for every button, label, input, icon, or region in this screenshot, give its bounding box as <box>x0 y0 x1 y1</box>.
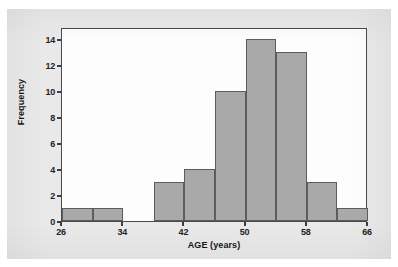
histogram-bar <box>184 169 215 221</box>
histogram-bar <box>62 208 93 221</box>
histogram-bar <box>276 52 307 221</box>
y-tick-label: 4 <box>50 163 55 177</box>
x-tick-mark <box>244 222 246 226</box>
x-tick-mark <box>366 222 368 226</box>
histogram-bar <box>215 91 246 221</box>
histogram-bar <box>154 182 185 221</box>
y-tick-label: 12 <box>45 59 55 73</box>
x-tick-mark <box>182 222 184 226</box>
x-tick-mark <box>121 222 123 226</box>
y-axis-title: Frequency <box>16 62 26 142</box>
x-tick-label: 26 <box>47 227 75 237</box>
x-tick-label: 50 <box>231 227 259 237</box>
histogram-bar <box>307 182 338 221</box>
y-tick-label: 14 <box>45 33 55 47</box>
histogram-bar <box>93 208 124 221</box>
x-axis-title: AGE (years) <box>61 240 367 250</box>
x-tick-mark <box>305 222 307 226</box>
histogram-bar <box>337 208 368 221</box>
figure-background: 02468101214 263442505866 AGE (years) Fre… <box>7 9 391 259</box>
histogram-bar <box>246 39 277 221</box>
y-tick-label: 2 <box>50 189 55 203</box>
x-tick-label: 42 <box>169 227 197 237</box>
x-tick-label: 66 <box>353 227 381 237</box>
plot-area <box>61 28 367 222</box>
x-tick-label: 34 <box>108 227 136 237</box>
y-tick-label: 6 <box>50 137 55 151</box>
y-tick-label: 8 <box>50 111 55 125</box>
y-tick-label: 10 <box>45 85 55 99</box>
x-tick-mark <box>60 222 62 226</box>
x-tick-label: 58 <box>292 227 320 237</box>
